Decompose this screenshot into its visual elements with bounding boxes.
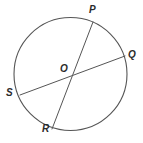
point-label-r: R (42, 124, 49, 134)
geometry-figure: P Q R S O (0, 0, 143, 143)
point-label-p: P (89, 5, 96, 15)
circle-outline (14, 18, 127, 131)
point-label-o-center: O (60, 64, 68, 74)
point-label-s: S (6, 88, 13, 98)
chord-qs (20, 56, 125, 95)
point-label-q: Q (128, 50, 136, 60)
geometry-canvas (0, 0, 143, 143)
